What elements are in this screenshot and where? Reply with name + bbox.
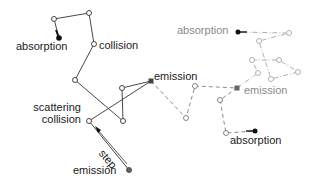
label-scattering: scattering [33,101,81,113]
label-collision: collision [99,39,138,51]
label-emission-mid: emission [154,70,197,82]
emission-marker-bottom [127,168,132,173]
emission-marker-gray [235,86,240,91]
absorption-marker-light [236,30,248,35]
label-scattering-collision: collision [33,113,81,125]
label-absorption-gray-top: absorption [177,24,228,36]
label-emission-gray: emission [244,84,287,96]
path-black-solid [54,13,151,170]
label-absorption-black: absorption [16,40,67,52]
label-emission-bottom: emission [73,164,116,176]
light-gray-nodes [250,31,301,82]
label-absorption-gray-bottom: absorption [230,134,281,146]
path-light-gray [237,32,298,88]
absorption-marker-gray [246,129,258,134]
emission-marker-mid [149,79,154,84]
